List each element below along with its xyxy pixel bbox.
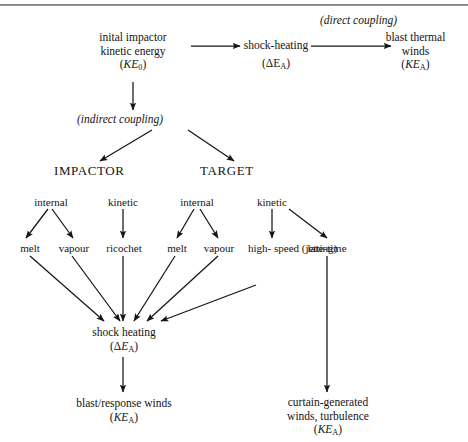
edge-indirect-to-impactor: [100, 130, 152, 161]
symbol-ke: KE: [405, 58, 420, 70]
edge-targetinternal-to-vapour: [200, 209, 218, 238]
paren-open-delta-e: (ΔE: [262, 57, 280, 69]
symbol-ke: KE: [318, 423, 333, 435]
edge-impactormelt-to-shockheating: [30, 256, 104, 321]
node-target-kinetic: kinetic: [247, 196, 297, 208]
node-shock-heating-mid-line1: shock heating: [65, 326, 183, 340]
node-initial-impactor-symbol: (KE0): [63, 58, 203, 73]
paren-close: ): [142, 58, 146, 70]
symbol-ke: KE: [114, 411, 129, 423]
node-high-speed-jetting: high- speed (jetting): [248, 242, 296, 255]
node-initial-impactor-line2: kinetic energy: [63, 45, 203, 59]
edge-highspeed-to-shockheating: [161, 285, 256, 321]
edge-impactorinternal-to-melt: [26, 209, 48, 238]
caption-indirect-coupling: (indirect coupling): [77, 113, 163, 125]
node-impactor-melt: melt: [6, 242, 54, 254]
node-blast-thermal-winds-line2: winds: [363, 45, 468, 59]
edge-impactorinternal-to-vapour: [52, 209, 73, 238]
edge-indirect-to-target: [188, 130, 234, 161]
node-blast-response-winds: blast/response winds (KEA): [48, 397, 200, 426]
node-shock-heating-top: shock-heating (ΔEA): [211, 39, 341, 72]
node-blast-response-winds-symbol: (KEA): [48, 411, 200, 426]
node-target-vapour: vapour: [193, 242, 245, 254]
edge-targetmelt-to-shockheating: [134, 256, 175, 321]
node-curtain-generated-symbol: (KEA): [265, 423, 391, 438]
node-blast-thermal-winds: blast thermal winds (KEA): [363, 31, 468, 73]
paren-open-delta: (Δ: [110, 340, 121, 352]
node-high-speed-jetting-line2: speed: [274, 242, 299, 254]
edge-targetinternal-to-melt: [177, 209, 194, 238]
node-impactor-internal: internal: [22, 196, 80, 208]
flow-diagram-figure: (direct coupling) (indirect coupling) in…: [0, 0, 468, 442]
node-impactor-vapour: vapour: [48, 242, 100, 254]
node-shock-heating-mid-symbol: (ΔEA): [65, 340, 183, 355]
edge-impactorvapour-to-shockheating: [72, 256, 120, 321]
node-curtain-generated: curtain-generated winds, turbulence (KEA…: [265, 396, 391, 438]
node-shock-heating-mid: shock heating (ΔEA): [65, 326, 183, 355]
node-high-speed-jetting-line1: high-: [248, 242, 271, 254]
node-late-time: late-time: [298, 242, 356, 254]
paren-close: ): [134, 340, 138, 352]
top-horizontal-rule: [0, 4, 468, 6]
caption-direct-coupling: (direct coupling): [320, 14, 397, 26]
node-curtain-generated-line2: winds, turbulence: [265, 410, 391, 424]
node-initial-impactor-line1: inital impactor: [63, 31, 203, 45]
paren-close: ): [426, 58, 430, 70]
node-blast-thermal-winds-line1: blast thermal: [363, 31, 468, 45]
node-shock-heating-top-line1: shock-heating: [211, 39, 341, 53]
node-ricochet: ricochet: [97, 242, 151, 254]
paren-close: ): [286, 57, 290, 69]
paren-close: ): [338, 423, 342, 435]
symbol-ke: KE: [124, 58, 139, 70]
node-target-internal: internal: [168, 196, 226, 208]
edge-targetkinetic-to-latetime: [289, 209, 327, 238]
node-target: TARGET: [200, 163, 254, 179]
node-blast-thermal-winds-symbol: (KEA): [363, 58, 468, 73]
node-impactor: IMPACTOR: [54, 163, 125, 179]
node-blast-response-winds-line1: blast/response winds: [48, 397, 200, 411]
paren-close: ): [134, 411, 138, 423]
node-impactor-kinetic: kinetic: [98, 196, 148, 208]
node-curtain-generated-line1: curtain-generated: [265, 396, 391, 410]
edge-targetvapour-to-shockheating: [147, 256, 218, 321]
node-shock-heating-top-symbol: (ΔEA): [211, 57, 341, 72]
node-initial-impactor: inital impactor kinetic energy (KE0): [63, 31, 203, 73]
